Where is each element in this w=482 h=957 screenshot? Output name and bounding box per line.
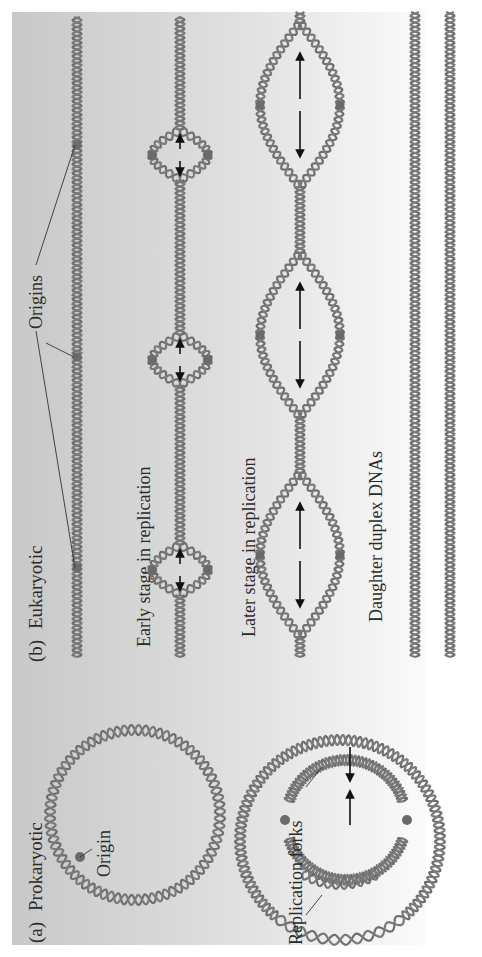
origin-dot [204,566,213,575]
origin-dot [204,356,213,365]
origin-dot [336,551,345,560]
origin-dot [256,551,265,560]
panel-b-title: Eukaryotic [25,546,46,629]
panel-a-title: Prokaryotic [25,822,46,911]
origin-label: Origin [94,830,114,877]
origin-dot [148,566,157,575]
origin-dot [204,151,213,160]
panel-b-letter: (b) [25,640,47,662]
daughter-duplex-label: Daughter duplex DNAs [366,451,386,622]
origin-dot [148,356,157,365]
origin-dot [336,331,345,340]
origin-dot [73,564,82,573]
origins-label: Origins [26,275,46,329]
origin-dot [402,815,412,825]
later-stage-label: Later stage in replication [239,458,259,637]
origin-dot [256,101,265,110]
dna-replication-figure: (a) Prokaryotic Origin Replication forks… [0,0,482,957]
origin-dot [148,151,157,160]
panel-a-letter: (a) [25,922,47,943]
replication-forks-label: Replication forks [286,821,306,945]
origin-dot [256,331,265,340]
early-stage-label: Early stage in replication [134,467,154,647]
figure-landscape-frame: (a) Prokaryotic Origin Replication forks… [0,0,482,957]
origin-dot [336,101,345,110]
